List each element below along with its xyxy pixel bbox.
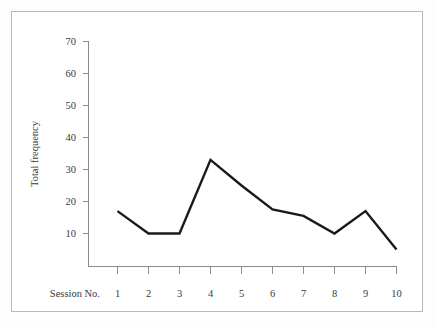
x-tick-label-6: 6 [270, 288, 275, 299]
x-tick-label-3: 3 [177, 288, 182, 299]
x-tick-label-5: 5 [239, 288, 244, 299]
x-tick-label-1: 1 [115, 288, 120, 299]
chart-figure-frame: 70 60 50 40 30 20 10 [11, 11, 423, 312]
x-axis-ticks [118, 267, 397, 274]
y-tick-label-20: 20 [66, 196, 77, 207]
x-axis-tick-labels: 1 2 3 4 5 6 7 8 9 10 [115, 288, 402, 299]
screenshot-page: 70 60 50 40 30 20 10 [0, 0, 436, 327]
y-tick-label-70: 70 [66, 36, 77, 47]
y-axis-tick-labels: 70 60 50 40 30 20 10 [66, 36, 77, 239]
y-axis-title: Total frequency [29, 120, 40, 187]
y-tick-label-10: 10 [66, 228, 77, 239]
data-series-line [118, 160, 397, 250]
x-tick-label-10: 10 [391, 288, 402, 299]
y-tick-label-50: 50 [66, 100, 77, 111]
x-tick-label-4: 4 [208, 288, 214, 299]
y-tick-label-30: 30 [66, 164, 77, 175]
y-axis-ticks [83, 42, 89, 234]
x-tick-label-2: 2 [146, 288, 151, 299]
x-axis-title: Session No. [50, 288, 100, 299]
y-tick-label-60: 60 [66, 68, 77, 79]
y-tick-label-40: 40 [66, 132, 77, 143]
x-tick-label-7: 7 [301, 288, 306, 299]
x-tick-label-8: 8 [332, 288, 337, 299]
x-tick-label-9: 9 [363, 288, 368, 299]
line-chart: 70 60 50 40 30 20 10 [12, 12, 422, 311]
